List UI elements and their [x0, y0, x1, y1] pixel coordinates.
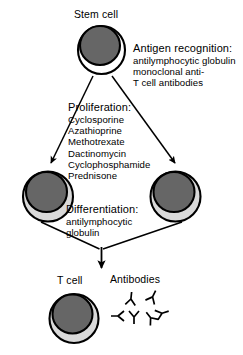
antigen-recognition-line: T cell antibodies: [133, 77, 236, 88]
t-cell-graphic: [50, 294, 99, 343]
antibody-icon: [155, 306, 170, 320]
antigen-recognition-title: Antigen recognition:: [133, 42, 236, 55]
proliferation-drug: Cyclosporine: [68, 114, 150, 125]
differentiation-line: globulin: [66, 227, 138, 238]
antibody-icon: [111, 311, 124, 321]
antigen-recognition-line: antilymphocytic globulin: [133, 55, 236, 66]
proliferation-drug: Azathioprine: [68, 125, 150, 136]
proliferation-drug: Cyclophosphamide: [68, 159, 150, 170]
antibody-icon: [145, 288, 160, 304]
antibody-icon: [125, 292, 136, 306]
proliferation-drug: Dactinomycin: [68, 148, 150, 159]
antigen-recognition-annotation: Antigen recognition: antilymphocytic glo…: [133, 42, 236, 89]
proliferation-drug: Prednisone: [68, 170, 150, 181]
t-cell-label: T cell: [57, 275, 83, 286]
antibody-icon: [129, 311, 139, 324]
proliferation-annotation: Proliferation: Cyclosporine Azathioprine…: [68, 101, 150, 181]
proliferation-title: Proliferation:: [68, 101, 150, 114]
stem-cell-graphic: [78, 26, 125, 74]
antibody-cluster-graphic: [111, 288, 170, 325]
differentiation-title: Differentiation:: [66, 203, 138, 216]
right-daughter-cell-graphic: [151, 172, 201, 222]
antibodies-label: Antibodies: [110, 274, 160, 285]
differentiation-line: antilymphocytic: [66, 216, 138, 227]
differentiation-annotation: Differentiation: antilymphocytic globuli…: [66, 203, 138, 238]
stem-cell-differentiation-diagram: Stem cell Antigen recognition: antilymph…: [0, 0, 243, 355]
proliferation-drug: Methotrexate: [68, 136, 150, 147]
stem-cell-label: Stem cell: [74, 9, 118, 20]
antigen-recognition-line: monoclonal anti-: [133, 66, 236, 77]
